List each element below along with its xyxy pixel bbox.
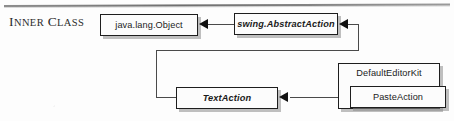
section-label: Inner Class — [9, 14, 84, 30]
connector-into-textaction — [156, 97, 177, 98]
class-box-pasteaction[interactable]: PasteAction — [350, 86, 446, 108]
header-rule-shadow — [4, 6, 450, 8]
connector-vertical-right-drop — [358, 24, 359, 51]
connector-horizontal-span — [156, 50, 359, 51]
arrowhead-icon-to-textaction — [279, 92, 288, 102]
class-box-textaction[interactable]: TextAction — [176, 87, 278, 109]
section-label-rest-2: lass — [57, 17, 84, 28]
class-name-label: TextAction — [203, 93, 252, 103]
class-name-label: swing.AbstractAction — [237, 19, 334, 29]
section-label-rest-1: nner — [14, 17, 44, 28]
diagram-page: Inner Class java.lang.Object swing.Abstr… — [0, 0, 454, 121]
class-box-swing-abstractaction[interactable]: swing.AbstractAction — [234, 13, 338, 35]
class-name-label: PasteAction — [373, 92, 423, 102]
arrowhead-icon-to-abstractaction — [339, 19, 348, 29]
section-label-initial-2: C — [48, 14, 57, 29]
connector-vertical-left-drop — [156, 50, 157, 98]
arrowhead-icon-to-object — [199, 19, 208, 29]
connector-abstractaction-to-object — [205, 24, 235, 25]
class-name-label: DefaultEditorKit — [339, 68, 439, 78]
class-name-label: java.lang.Object — [115, 20, 182, 30]
class-box-java-lang-object[interactable]: java.lang.Object — [100, 14, 198, 36]
